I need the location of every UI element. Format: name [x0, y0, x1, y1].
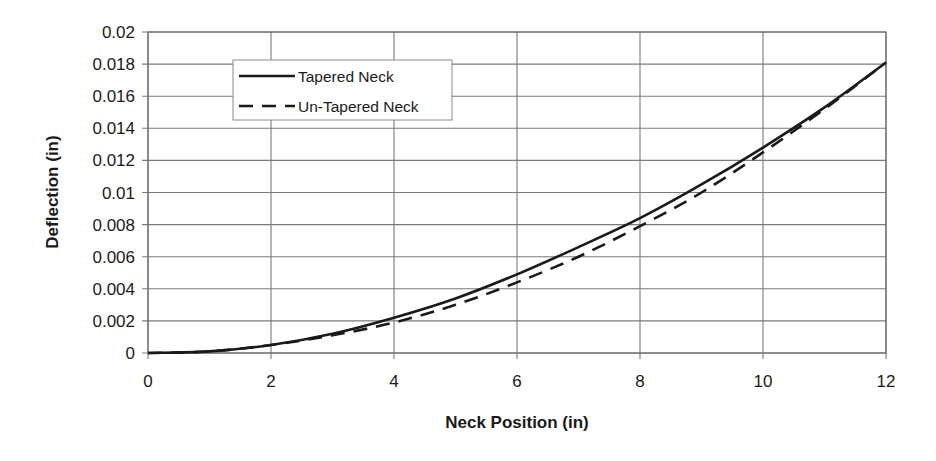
- x-tick-label: 0: [143, 372, 152, 391]
- x-axis-title: Neck Position (in): [445, 413, 589, 432]
- y-tick-label: 0.004: [92, 280, 135, 299]
- x-tick-label: 6: [512, 372, 521, 391]
- y-tick-label: 0.01: [102, 184, 135, 203]
- x-tick-label: 4: [389, 372, 398, 391]
- x-tick-label: 8: [635, 372, 644, 391]
- x-tick-label: 12: [877, 372, 896, 391]
- x-tick-label: 10: [754, 372, 773, 391]
- y-tick-label: 0.006: [92, 248, 135, 267]
- y-tick-label: 0.014: [92, 119, 135, 138]
- x-tick-label: 2: [266, 372, 275, 391]
- y-tick-label: 0: [126, 344, 135, 363]
- legend-label-tapered: Tapered Neck: [298, 68, 394, 85]
- y-axis-title: Deflection (in): [43, 135, 62, 248]
- y-tick-label: 0.02: [102, 23, 135, 42]
- y-axis-ticks: 00.0020.0040.0060.0080.010.0120.0140.016…: [92, 23, 135, 363]
- y-tick-label: 0.002: [92, 312, 135, 331]
- legend-label-untapered: Un-Tapered Neck: [298, 98, 419, 115]
- y-tick-label: 0.012: [92, 151, 135, 170]
- deflection-chart: 00.0020.0040.0060.0080.010.0120.0140.016…: [0, 0, 936, 461]
- x-axis-ticks: 024681012: [143, 372, 895, 391]
- y-tick-label: 0.016: [92, 87, 135, 106]
- y-tick-label: 0.008: [92, 216, 135, 235]
- y-tick-label: 0.018: [92, 55, 135, 74]
- legend: Tapered Neck Un-Tapered Neck: [233, 60, 452, 120]
